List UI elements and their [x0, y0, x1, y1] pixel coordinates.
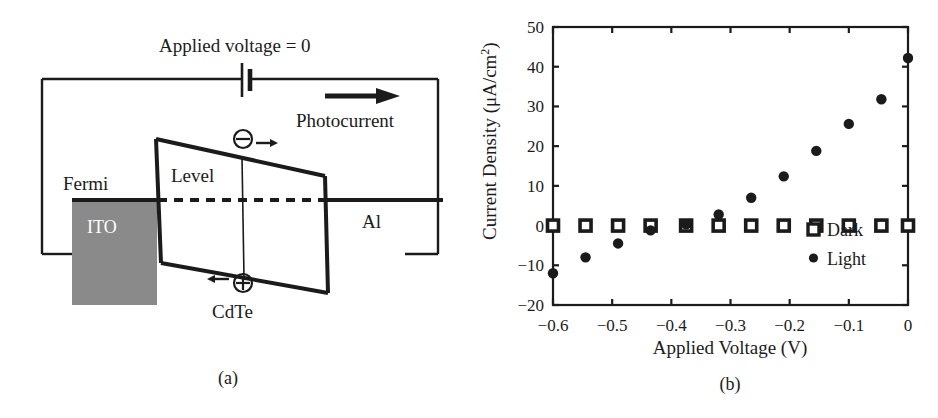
al-label: Al [362, 211, 381, 232]
data-point-light [779, 171, 789, 181]
legend-marker-light [809, 253, 818, 262]
data-point-light [876, 94, 886, 104]
cdte-midline [242, 157, 244, 278]
level-label: Level [171, 165, 214, 186]
data-point-light [681, 219, 691, 229]
data-point-light [548, 268, 558, 278]
data-point-light [903, 53, 913, 63]
x-tick-label: −0.3 [715, 316, 746, 335]
data-point-light [613, 238, 623, 248]
legend-marker-dark [808, 224, 819, 235]
y-axis-tick-labels: −20−1001020304050 [517, 18, 544, 315]
y-tick-label: 30 [527, 97, 544, 116]
legend-label-dark: Dark [827, 220, 863, 240]
y-tick-label: 0 [536, 217, 545, 236]
applied-voltage-label: Applied voltage = 0 [159, 35, 311, 56]
data-point-light [844, 119, 854, 129]
cdte-right-edge [325, 176, 328, 293]
x-tick-label: −0.6 [538, 316, 569, 335]
x-tick-label: −0.5 [597, 316, 628, 335]
ito-label: ITO [87, 217, 117, 237]
legend-label-light: Light [827, 249, 866, 269]
x-tick-label: −0.2 [774, 316, 805, 335]
electron-symbol-icon [234, 130, 278, 148]
figure-container: Applied voltage = 0 Photocurrent Fermi L… [0, 0, 938, 418]
panel-a-band-diagram: Applied voltage = 0 Photocurrent Fermi L… [0, 0, 470, 418]
chart-svg: −0.6−0.5−0.4−0.3−0.2−0.10 −20−1001020304… [470, 0, 938, 418]
data-point-dark [613, 220, 624, 231]
y-tick-label: −10 [517, 256, 544, 275]
y-tick-label: 10 [527, 177, 544, 196]
x-tick-label: −0.1 [833, 316, 864, 335]
y-tick-label: 20 [527, 137, 544, 156]
photocurrent-arrow-icon [325, 88, 400, 104]
x-axis-title: Applied Voltage (V) [653, 337, 807, 359]
y-tick-label: 40 [527, 58, 544, 77]
data-point-dark [746, 220, 757, 231]
data-point-light [580, 252, 590, 262]
data-point-dark [778, 220, 789, 231]
data-point-dark [876, 220, 887, 231]
y-axis-title: Current Density (μA/cm2) [478, 42, 501, 240]
data-point-dark [903, 220, 914, 231]
fermi-label: Fermi [63, 173, 108, 194]
data-point-dark [580, 220, 591, 231]
panel-a-caption: (a) [218, 368, 238, 389]
data-point-light [713, 209, 723, 219]
photocurrent-label: Photocurrent [296, 110, 395, 131]
data-point-light [811, 146, 821, 156]
y-tick-label: 50 [527, 18, 544, 37]
chart-legend: Dark Light [808, 220, 866, 269]
x-axis-tick-labels: −0.6−0.5−0.4−0.3−0.2−0.10 [538, 316, 913, 335]
data-point-dark [713, 220, 724, 231]
data-point-dark [548, 220, 559, 231]
y-tick-label: −20 [517, 296, 544, 315]
x-tick-label: −0.4 [656, 316, 687, 335]
x-tick-label: 0 [904, 316, 913, 335]
panel-b-caption: (b) [720, 374, 741, 395]
data-point-light [746, 193, 756, 203]
cdte-label: CdTe [212, 301, 253, 322]
data-point-light [645, 225, 655, 235]
series-light-points [548, 53, 913, 279]
band-diagram-svg: Applied voltage = 0 Photocurrent Fermi L… [0, 0, 470, 418]
panel-b-chart: −0.6−0.5−0.4−0.3−0.2−0.10 −20−1001020304… [470, 0, 938, 418]
